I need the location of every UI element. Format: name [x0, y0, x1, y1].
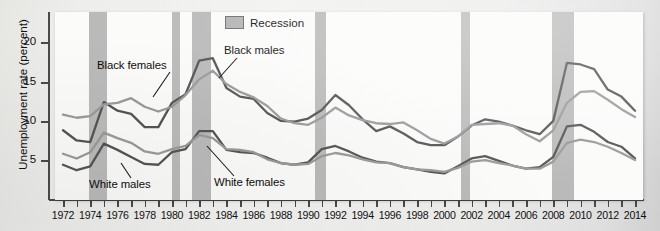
y-tick	[41, 121, 48, 123]
x-tick-label: 1988	[270, 209, 292, 221]
x-tick	[117, 201, 119, 207]
x-tick	[581, 201, 583, 207]
y-tick-label: 10	[14, 114, 36, 126]
x-tick	[458, 201, 460, 207]
annotation-black-males: Black males	[224, 44, 284, 56]
x-tick-label: 1982	[188, 209, 210, 221]
x-tick	[104, 201, 106, 207]
x-tick-label: 1986	[242, 209, 264, 221]
x-tick	[254, 201, 256, 207]
series-lines	[55, 12, 643, 200]
x-tick-label: 1978	[134, 209, 156, 221]
x-tick	[145, 201, 147, 207]
x-tick	[499, 201, 501, 207]
x-tick-label: 2014	[624, 209, 646, 221]
x-tick	[308, 201, 310, 207]
plot-area	[55, 12, 643, 200]
x-tick	[403, 201, 405, 207]
y-tick-label: 5	[14, 153, 36, 165]
x-tick	[431, 201, 433, 207]
y-tick-label: 15	[14, 75, 36, 87]
x-tick	[226, 201, 228, 207]
x-tick-label: 1984	[215, 209, 237, 221]
x-tick	[363, 201, 365, 207]
x-tick	[213, 201, 215, 207]
x-tick	[90, 201, 92, 207]
x-tick	[417, 201, 419, 207]
series-line	[63, 125, 635, 174]
x-tick-label: 2000	[433, 209, 455, 221]
x-tick-label: 2010	[569, 209, 591, 221]
x-tick-label: 1992	[324, 209, 346, 221]
x-tick	[444, 201, 446, 207]
x-tick-label: 2002	[460, 209, 482, 221]
x-tick-label: 1996	[379, 209, 401, 221]
x-tick	[172, 201, 174, 207]
y-axis-line	[48, 12, 50, 200]
x-tick	[567, 201, 569, 207]
x-tick-label: 1976	[106, 209, 128, 221]
y-tick	[41, 42, 48, 44]
x-tick	[594, 201, 596, 207]
x-tick	[349, 201, 351, 207]
x-tick	[526, 201, 528, 207]
x-tick	[322, 201, 324, 207]
annotation-black-females: Black females	[97, 59, 167, 71]
x-tick	[390, 201, 392, 207]
x-tick	[131, 201, 133, 207]
x-tick-label: 2004	[488, 209, 510, 221]
x-tick	[512, 201, 514, 207]
x-tick	[485, 201, 487, 207]
legend-label: Recession	[250, 16, 304, 29]
x-tick	[199, 201, 201, 207]
x-tick	[240, 201, 242, 207]
chart-page: Unemployment rate (percent) 5101520 1972…	[0, 0, 660, 231]
x-tick	[295, 201, 297, 207]
x-tick	[281, 201, 283, 207]
x-tick	[186, 201, 188, 207]
x-tick-label: 1980	[161, 209, 183, 221]
x-tick-label: 1990	[297, 209, 319, 221]
legend-recession: Recession	[225, 16, 304, 29]
x-tick	[63, 201, 65, 207]
x-tick	[376, 201, 378, 207]
y-tick	[41, 160, 48, 162]
x-tick	[553, 201, 555, 207]
x-tick	[540, 201, 542, 207]
y-tick	[41, 82, 48, 84]
annotation-white-females: White females	[214, 176, 285, 188]
x-tick-label: 2006	[515, 209, 537, 221]
annotation-white-males: White males	[89, 178, 151, 190]
x-tick	[77, 201, 79, 207]
y-tick-label: 20	[14, 35, 36, 47]
x-tick-label: 1994	[351, 209, 373, 221]
recession-swatch-icon	[225, 16, 244, 29]
x-tick-label: 1972	[52, 209, 74, 221]
x-tick	[267, 201, 269, 207]
x-tick	[472, 201, 474, 207]
x-tick-label: 2012	[597, 209, 619, 221]
x-tick	[335, 201, 337, 207]
x-tick	[608, 201, 610, 207]
x-tick	[621, 201, 623, 207]
series-line	[63, 71, 635, 144]
x-tick-label: 2008	[542, 209, 564, 221]
x-tick-label: 1974	[79, 209, 101, 221]
x-tick-label: 1998	[406, 209, 428, 221]
x-tick	[158, 201, 160, 207]
x-tick	[635, 201, 637, 207]
